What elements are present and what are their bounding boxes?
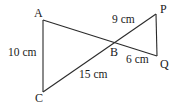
point-label-c: C bbox=[35, 92, 43, 104]
length-label-bp: 9 cm bbox=[112, 14, 135, 26]
point-label-p: P bbox=[160, 3, 167, 15]
segment-pq bbox=[156, 14, 157, 56]
length-label-ac: 10 cm bbox=[8, 47, 36, 59]
geometry-diagram: A C B P Q 10 cm 15 cm 9 cm 6 cm bbox=[0, 0, 176, 107]
point-label-a: A bbox=[34, 7, 43, 19]
length-label-bq: 6 cm bbox=[126, 54, 149, 66]
length-label-bc: 15 cm bbox=[79, 69, 107, 81]
point-label-q: Q bbox=[160, 58, 169, 70]
point-label-b: B bbox=[110, 46, 118, 58]
